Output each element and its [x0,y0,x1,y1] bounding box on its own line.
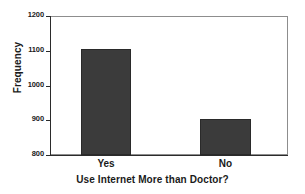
y-tick-800: 800 [0,155,50,156]
y-tick-label: 1200 [28,10,44,19]
y-tick-label: 900 [32,114,44,123]
bar-no [200,119,251,156]
y-axis-line [50,16,51,156]
bar-chart: Frequency 1200 1100 1000 900 800 Yes No … [0,0,305,194]
y-tick-mark [46,120,50,121]
y-tick-900: 900 [0,120,50,121]
y-tick-mark [46,86,50,87]
y-tick-mark [46,51,50,52]
y-tick-label: 1100 [28,45,44,54]
x-tick-label-yes: Yes [81,158,131,169]
y-tick-label: 800 [32,149,44,158]
y-tick-1100: 1100 [0,51,50,52]
x-tick-label-no: No [200,158,251,169]
y-axis-title: Frequency [12,23,23,113]
x-axis-line [50,155,288,156]
bar-yes [81,49,131,155]
y-tick-1200: 1200 [0,16,50,17]
y-tick-1000: 1000 [0,86,50,87]
y-tick-mark [46,155,50,156]
y-tick-label: 1000 [28,80,44,89]
y-tick-mark [46,16,50,17]
x-axis-title: Use Internet More than Doctor? [0,174,305,185]
